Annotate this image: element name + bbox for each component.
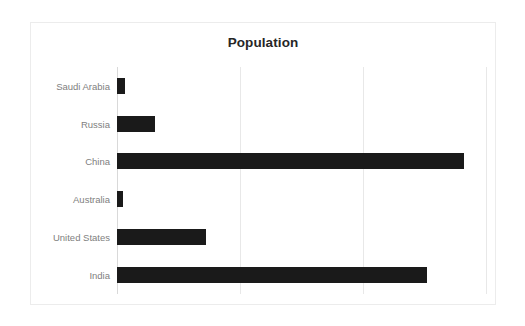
- bar-australia[interactable]: [117, 191, 123, 207]
- gridline-3: [486, 67, 487, 294]
- category-label: Russia: [81, 118, 110, 129]
- bar-row: Australia: [117, 180, 486, 218]
- bar-row: Saudi Arabia: [117, 67, 486, 105]
- bar-russia[interactable]: [117, 116, 155, 132]
- bar-row: United States: [117, 218, 486, 256]
- chart-title: Population: [31, 35, 495, 50]
- bar-row: Russia: [117, 105, 486, 143]
- bar-row: China: [117, 143, 486, 181]
- bar-row: India: [117, 256, 486, 294]
- bar-india[interactable]: [117, 267, 427, 283]
- bar-united-states[interactable]: [117, 229, 206, 245]
- category-label: United States: [53, 232, 110, 243]
- plot-area: Saudi Arabia Russia China Australia Unit…: [117, 67, 486, 294]
- category-label: China: [85, 156, 110, 167]
- chart-card: Population Saudi Arabia Russia China Aus…: [30, 22, 496, 305]
- bar-china[interactable]: [117, 153, 464, 169]
- category-label: India: [89, 269, 110, 280]
- category-label: Saudi Arabia: [56, 80, 110, 91]
- category-label: Australia: [73, 194, 110, 205]
- bar-saudi-arabia[interactable]: [117, 78, 125, 94]
